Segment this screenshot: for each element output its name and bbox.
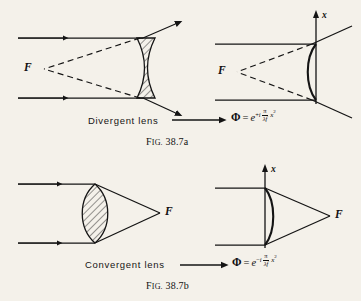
convergent-formula-phi: Φ (232, 256, 242, 268)
panel-convergent-phase-diagram (215, 164, 330, 248)
virtual-focus-construction-top-right (237, 44, 312, 100)
virtual-focus-construction-top-left (44, 38, 140, 98)
panel-divergent-ray-diagram (18, 22, 180, 115)
ray-direction-arrows-bottom-left (18, 184, 60, 243)
x-axis-label-top-right: x (322, 10, 327, 20)
convergent-formula-equals: = (244, 257, 250, 268)
outgoing-rays-top-left (143, 22, 180, 115)
curved-surface-bottom-right (265, 188, 273, 245)
biconcave-lens-top-left (137, 38, 155, 98)
diagram-canvas (0, 0, 361, 301)
x-axis-arrowhead-top-right (313, 10, 319, 18)
figure-caption-a: FIG. 38.7a (146, 136, 188, 147)
focus-label-top-left: F (24, 61, 32, 73)
convergent-lens-label: Convergent lens (85, 259, 165, 270)
caption-b-ig: IG. (152, 282, 163, 291)
outgoing-rays-top-right (312, 26, 352, 118)
focus-label-bottom-left: F (165, 205, 173, 217)
curved-surface-top-right (308, 44, 316, 100)
divergent-lens-label: Divergent lens (88, 115, 159, 126)
convergent-power: 2 (274, 254, 277, 259)
panel-convergent-ray-diagram (18, 184, 160, 243)
focus-label-bottom-right: F (335, 208, 343, 220)
divergent-fraction-numerator: π (262, 108, 267, 115)
caption-a-ig: IG. (152, 138, 163, 147)
convergent-fraction-numerator: π (263, 253, 268, 260)
convergent-fraction-denominator: λf (263, 261, 270, 268)
divergent-imaginary-unit: i (259, 111, 261, 118)
convergent-formula-exponent: − i π λf x 2 (256, 252, 277, 267)
divergent-formula-equals: = (243, 112, 249, 123)
figure-caption-b: FIG. 38.7b (146, 280, 189, 291)
divergent-formula-phi: Φ (231, 111, 241, 123)
biconvex-lens-bottom-left (82, 184, 108, 243)
convergent-fraction: π λf (263, 253, 270, 268)
divergent-fraction-denominator: λf (262, 116, 269, 123)
converging-rays-bottom-right (265, 188, 330, 245)
divergent-formula-exponent: + i π λf x 2 (255, 107, 276, 122)
convergent-phase-formula: Φ = e − i π λf x 2 (232, 256, 277, 271)
figure-page: F F F F x x Divergent lens Φ = e + i π λ… (0, 0, 361, 301)
divergent-fraction: π λf (262, 108, 269, 123)
convergent-imaginary-unit: i (260, 256, 262, 263)
caption-a-number: 38.7a (166, 136, 189, 147)
caption-b-number: 38.7b (166, 280, 190, 291)
divergent-phase-formula: Φ = e + i π λf x 2 (231, 111, 276, 126)
incoming-rays-bottom-right (215, 188, 265, 245)
incoming-rays-top-left (18, 38, 143, 98)
x-axis-arrowhead-bottom-right (262, 164, 268, 172)
divergent-power: 2 (273, 109, 276, 114)
x-axis-label-bottom-right: x (271, 164, 276, 174)
focus-label-top-right: F (218, 64, 226, 76)
panel-divergent-phase-diagram (215, 10, 352, 118)
incoming-rays-top-right (215, 44, 316, 100)
